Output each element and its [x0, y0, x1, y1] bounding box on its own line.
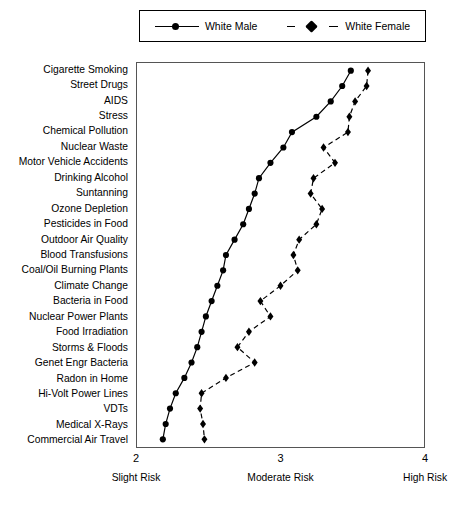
x-axis-tick-label: 4 — [422, 452, 428, 464]
category-label: Food Irradiation — [56, 327, 128, 337]
category-label: Radon in Home — [56, 373, 128, 383]
category-axis-labels: Cigarette SmokingStreet DrugsAIDSStressC… — [0, 62, 132, 448]
legend-label-white-female: White Female — [345, 20, 410, 32]
data-point-marker — [163, 421, 169, 427]
data-point-marker — [160, 436, 166, 442]
category-label: Suntanning — [76, 188, 128, 198]
data-point-marker — [203, 313, 209, 319]
category-label: AIDS — [104, 95, 128, 105]
data-point-marker — [328, 98, 334, 104]
data-point-marker — [201, 435, 207, 443]
data-point-marker — [200, 420, 206, 428]
data-point-marker — [194, 344, 200, 350]
data-point-marker — [240, 221, 246, 227]
data-point-marker — [289, 129, 295, 135]
data-point-marker — [199, 329, 205, 335]
data-point-marker — [311, 174, 317, 182]
data-point-marker — [365, 67, 371, 75]
data-point-marker — [199, 389, 205, 397]
diamond-marker-icon — [287, 21, 339, 32]
data-point-marker — [267, 312, 273, 320]
category-label: Bacteria in Food — [53, 296, 128, 306]
category-label: Pesticides in Food — [44, 219, 128, 229]
category-label: Motor Vehicle Accidents — [19, 157, 128, 167]
data-point-marker — [246, 206, 252, 212]
plot-area — [136, 62, 425, 448]
data-point-marker — [308, 189, 314, 197]
data-point-marker — [278, 282, 284, 290]
category-label: Stress — [99, 111, 128, 121]
legend-entry-white-female: White Female — [287, 20, 410, 32]
x-axis-caption: High Risk — [403, 472, 447, 483]
data-point-marker — [295, 266, 301, 274]
data-point-marker — [346, 113, 352, 121]
category-label: Ozone Depletion — [51, 204, 128, 214]
category-label: Storms & Floods — [52, 342, 128, 352]
x-axis-caption: Slight Risk — [112, 472, 161, 483]
data-point-marker — [313, 220, 319, 228]
category-label: Cigarette Smoking — [43, 65, 128, 75]
data-point-marker — [267, 160, 273, 166]
data-point-marker — [214, 283, 220, 289]
category-label: Drinking Alcohol — [54, 173, 128, 183]
data-point-marker — [252, 190, 258, 196]
data-point-marker — [197, 404, 203, 412]
data-point-marker — [223, 252, 229, 258]
data-point-marker — [290, 251, 296, 259]
category-label: Genet Engr Bacteria — [35, 358, 128, 368]
category-label: Nuclear Power Plants — [29, 312, 128, 322]
chart-lines-svg — [137, 63, 424, 447]
data-point-marker — [313, 114, 319, 120]
category-label: Hi-Volt Power Lines — [38, 389, 128, 399]
category-label: VDTs — [103, 404, 128, 414]
data-point-marker — [209, 298, 215, 304]
category-label: Outdoor Air Quality — [41, 234, 128, 244]
category-label: Street Drugs — [70, 80, 128, 90]
x-axis-tick-label: 3 — [277, 452, 283, 464]
data-point-marker — [339, 83, 345, 89]
x-axis-ticks: 234 — [136, 452, 425, 468]
chart-legend: White Male White Female — [139, 10, 426, 42]
data-point-marker — [252, 358, 258, 366]
data-point-marker — [280, 144, 286, 150]
data-point-marker — [256, 175, 262, 181]
data-point-marker — [246, 328, 252, 336]
legend-label-white-male: White Male — [205, 20, 258, 32]
category-label: Nuclear Waste — [61, 142, 128, 152]
data-point-marker — [352, 97, 358, 105]
data-point-marker — [223, 374, 229, 382]
data-point-marker — [296, 235, 302, 243]
data-point-marker — [348, 68, 354, 74]
data-point-marker — [188, 359, 194, 365]
category-label: Coal/Oil Burning Plants — [22, 265, 128, 275]
data-point-marker — [173, 390, 179, 396]
x-axis-captions: Slight RiskModerate RiskHigh Risk — [136, 472, 425, 488]
series-line-white-male — [163, 71, 351, 440]
data-point-marker — [181, 375, 187, 381]
data-point-marker — [345, 128, 351, 136]
category-label: Commercial Air Travel — [27, 435, 128, 445]
x-axis-tick-label: 2 — [133, 452, 139, 464]
data-point-marker — [167, 406, 173, 412]
x-axis-caption: Moderate Risk — [247, 472, 313, 483]
legend-entry-white-male: White Male — [155, 20, 258, 32]
data-point-marker — [232, 237, 238, 243]
data-point-marker — [321, 143, 327, 151]
category-label: Chemical Pollution — [43, 126, 128, 136]
category-label: Blood Transfusions — [40, 250, 128, 260]
circle-marker-icon — [155, 21, 199, 32]
data-point-marker — [220, 267, 226, 273]
category-label: Climate Change — [54, 281, 128, 291]
category-label: Medical X-Rays — [56, 420, 128, 430]
